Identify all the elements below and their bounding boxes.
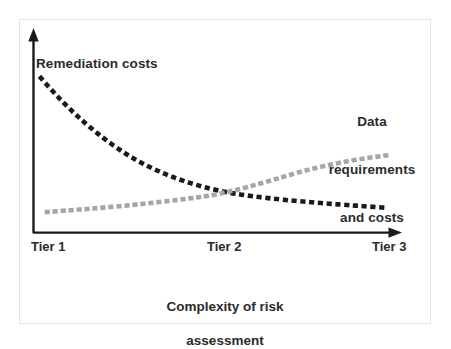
series-label-data-line-3: and costs (306, 210, 438, 226)
x-tick-label-tier-1: Tier 1 (31, 239, 65, 254)
x-axis-caption: Complexity of risk assessment (60, 281, 390, 349)
x-axis-caption-line-2: assessment (60, 332, 390, 349)
series-label-data-requirements: Data requirements and costs (306, 82, 438, 258)
series-label-remediation-costs: Remediation costs (36, 56, 158, 71)
x-axis-caption-line-1: Complexity of risk (60, 298, 390, 315)
series-label-data-line-1: Data (306, 114, 438, 130)
series-label-data-line-2: requirements (306, 162, 438, 178)
x-tick-label-tier-3: Tier 3 (372, 239, 406, 254)
x-tick-label-tier-2: Tier 2 (207, 239, 241, 254)
